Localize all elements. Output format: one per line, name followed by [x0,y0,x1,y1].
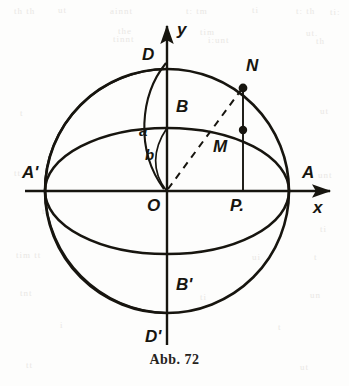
point-label-B-prime: B' [176,275,192,295]
figure-abb-72: th thutainntt: tmtit: thti:thetimut.tinn… [0,0,349,386]
point-label-N: N [246,56,258,76]
arc-label-a: a [139,122,147,139]
y-axis-label: y [177,20,186,40]
point-M [239,126,247,134]
point-label-M: M [213,137,227,157]
point-N [239,84,248,93]
point-label-A-prime: A' [22,163,38,183]
arc-label-b: b [145,146,154,163]
point-label-D-prime: D' [145,327,161,347]
construction-arc-ab [144,63,166,189]
figure-caption: Abb. 72 [0,352,349,368]
x-axis-label: x [313,198,322,218]
point-label-A: A [302,163,314,183]
point-label-O: O [147,196,160,216]
point-label-D: D [142,45,154,65]
geometry-drawing [0,0,349,386]
point-label-P: P. [230,196,244,216]
point-label-B: B [176,97,188,117]
